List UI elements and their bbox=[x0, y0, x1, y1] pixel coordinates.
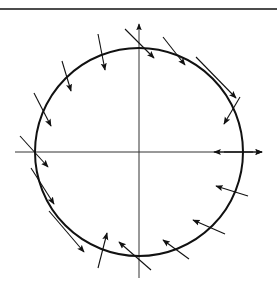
vector-arrows-group bbox=[20, 29, 262, 270]
vector-arrow bbox=[193, 220, 225, 234]
vector-arrow bbox=[216, 186, 248, 196]
vector-arrow bbox=[49, 211, 84, 252]
vector-field-diagram bbox=[0, 0, 277, 290]
vector-arrow bbox=[62, 61, 71, 91]
vector-arrow bbox=[196, 57, 236, 98]
vector-arrow bbox=[98, 34, 105, 70]
vector-arrow bbox=[31, 168, 54, 204]
vector-arrow bbox=[34, 93, 51, 126]
vector-arrow bbox=[163, 240, 189, 259]
